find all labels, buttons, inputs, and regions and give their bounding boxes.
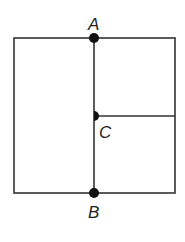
label-a: A — [87, 15, 99, 34]
label-b: B — [88, 203, 99, 222]
diagram-canvas: A B C — [0, 0, 185, 242]
point-b — [89, 188, 99, 198]
point-c — [94, 111, 99, 121]
point-a — [89, 33, 99, 43]
label-c: C — [99, 123, 112, 142]
